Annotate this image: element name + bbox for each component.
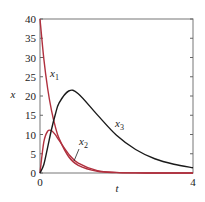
series-curves bbox=[40, 19, 193, 173]
series-line-x3 bbox=[40, 90, 193, 173]
y-tick-label: 10 bbox=[25, 129, 37, 141]
y-tick-label: 0 bbox=[31, 167, 37, 179]
y-axis-ticks: 0510152025303540 bbox=[25, 13, 193, 179]
y-tick-label: 15 bbox=[25, 109, 37, 121]
x-tick-label: 0 bbox=[37, 176, 43, 188]
x-tick-label: 4 bbox=[190, 176, 196, 188]
x2-leader-line bbox=[74, 149, 79, 161]
y-tick-label: 30 bbox=[25, 52, 37, 64]
y-tick-label: 5 bbox=[31, 148, 37, 160]
label-x2: x2 bbox=[78, 135, 88, 150]
label-x3: x3 bbox=[114, 117, 124, 132]
series-line-x2 bbox=[40, 130, 193, 173]
y-tick-label: 40 bbox=[25, 13, 37, 25]
x-axis-label: t bbox=[115, 182, 119, 194]
y-tick-label: 20 bbox=[25, 90, 37, 102]
y-tick-label: 25 bbox=[25, 71, 37, 83]
y-axis-label: x bbox=[10, 88, 16, 100]
y-tick-label: 35 bbox=[25, 32, 37, 44]
label-x1: x1 bbox=[49, 67, 59, 82]
line-chart: 0510152025303540 04 x1x2x3 t x bbox=[0, 0, 205, 202]
series-labels: x1x2x3 bbox=[49, 67, 124, 161]
